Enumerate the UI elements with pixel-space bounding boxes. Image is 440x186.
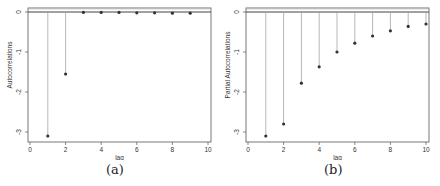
y-tick-label: -2	[233, 89, 240, 95]
data-point	[153, 11, 156, 14]
data-point	[389, 29, 392, 32]
data-point	[318, 65, 321, 68]
data-point	[335, 50, 338, 53]
x-tick-label: 2	[282, 146, 286, 153]
x-tick-label: 2	[64, 146, 68, 153]
data-point	[300, 82, 303, 85]
data-point	[82, 11, 85, 14]
data-point	[117, 11, 120, 14]
data-point	[407, 25, 410, 28]
y-tick-label: -2	[15, 89, 22, 95]
y-tick-label: 0	[233, 10, 240, 14]
x-tick-label: 4	[99, 146, 103, 153]
data-point	[100, 11, 103, 14]
x-axis-label: lag	[333, 154, 342, 160]
caption-a: (a)	[106, 162, 124, 177]
x-tick-label: 10	[204, 146, 212, 153]
data-point	[171, 12, 174, 15]
plot-frame	[28, 8, 211, 142]
data-point	[371, 34, 374, 37]
data-point	[282, 122, 285, 125]
x-tick-label: 6	[135, 146, 139, 153]
x-tick-label: 4	[317, 146, 321, 153]
y-axis-label: Autocorrelations	[6, 41, 13, 89]
x-tick-label: 8	[171, 146, 175, 153]
data-point	[353, 42, 356, 45]
autocorrelation-plot: 02468100-1-2-3lagAutocorrelations	[0, 0, 220, 160]
x-tick-label: 0	[246, 146, 250, 153]
x-tick-label: 6	[353, 146, 357, 153]
x-axis-label: lag	[115, 154, 124, 160]
data-point	[64, 72, 67, 75]
y-tick-label: 0	[15, 10, 22, 14]
partial-autocorrelation-plot: 02468100-1-2-3lagPartial Autocorrelation…	[218, 0, 438, 160]
y-tick-label: -1	[233, 49, 240, 55]
y-tick-label: -3	[233, 129, 240, 135]
data-point	[264, 134, 267, 137]
data-point	[189, 12, 192, 15]
plot-frame	[246, 8, 429, 142]
data-point	[424, 22, 427, 25]
y-axis-label: Partial Autocorrelations	[224, 31, 231, 99]
y-tick-label: -3	[15, 129, 22, 135]
caption-b: (b)	[324, 162, 342, 177]
x-tick-label: 0	[28, 146, 32, 153]
x-tick-label: 8	[389, 146, 393, 153]
y-tick-label: -1	[15, 49, 22, 55]
x-tick-label: 10	[422, 146, 430, 153]
data-point	[135, 11, 138, 14]
data-point	[46, 134, 49, 137]
